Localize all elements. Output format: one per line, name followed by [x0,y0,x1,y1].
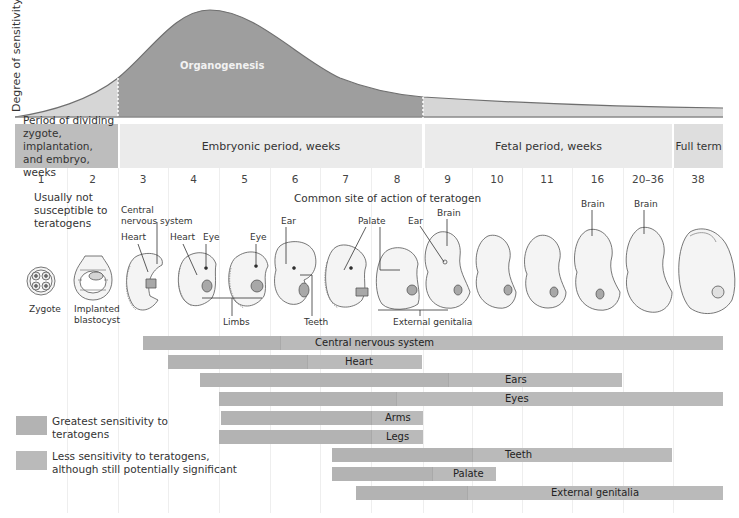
bar-eyes: Eyes [219,392,723,406]
bar-segment-greatest [221,411,371,425]
bar-label: Central nervous system [315,336,434,350]
bar-heart: Heart [168,355,422,369]
bar-external-genitalia: External genitalia [356,486,723,500]
legend-text-less: Less sensitivity to teratogens, although… [52,450,237,476]
fullterm-baby-illustration [679,229,735,314]
development-illustrations [0,0,739,340]
fetus-week20-36-illustration [626,210,672,312]
bar-label: Arms [385,411,411,425]
bar-segment-less [396,392,723,406]
bar-segment-greatest [143,336,280,350]
bar-central-nervous-system: Central nervous system [143,336,723,350]
embryo-week8-illustration [376,227,419,309]
bar-segment-greatest [219,392,396,406]
bar-label: Ears [505,373,527,387]
bar-label: Heart [345,355,373,369]
bar-segment-less [448,373,622,387]
bar-label: Eyes [505,392,529,406]
fetus-week16-illustration [575,210,620,310]
legend-line: Less sensitivity to teratogens, [52,450,237,463]
blastocyst-illustration [74,256,112,300]
bar-label: Teeth [505,448,532,462]
legend-line: teratogens [52,428,168,441]
legend-line: Greatest sensitivity to [52,415,168,428]
fetus-week11-illustration [525,235,566,308]
bar-label: Palate [453,467,484,481]
bar-segment-greatest [168,355,307,369]
legend-line: although still potentially significant [52,463,237,476]
legend-swatch-greatest [16,416,47,435]
bar-segment-less [472,448,672,462]
bar-ears: Ears [200,373,622,387]
bar-segment-greatest [219,430,371,444]
bar-segment-greatest [332,448,472,462]
embryo-week4-illustration [178,244,216,306]
bar-legs: Legs [219,430,423,444]
embryo-week7-illustration [325,227,368,308]
bar-label: Legs [386,430,409,444]
bar-palate: Palate [332,467,496,481]
legend-swatch-less [16,451,47,470]
bar-segment-greatest [332,467,432,481]
embryo-week6-illustration [275,227,316,316]
bar-segment-greatest [200,373,448,387]
bar-label: External genitalia [551,486,639,500]
zygote-illustration [27,267,55,295]
bar-teeth: Teeth [332,448,672,462]
legend-text-greatest: Greatest sensitivity to teratogens [52,415,168,441]
embryo-week3-illustration [126,222,162,310]
bar-segment-greatest [356,486,467,500]
bar-arms: Arms [221,411,423,425]
fetus-week10-illustration [476,235,516,308]
